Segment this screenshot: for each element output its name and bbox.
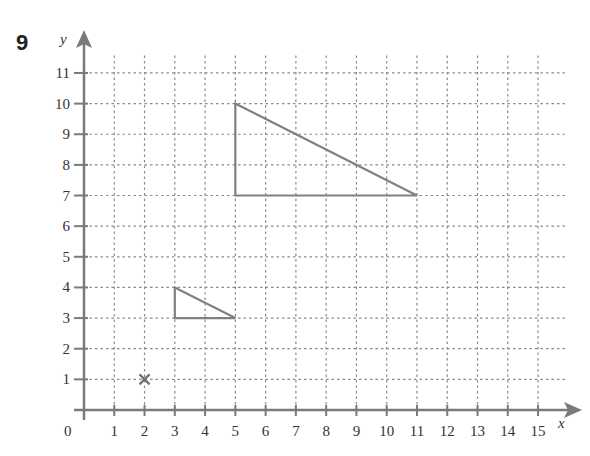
- x-axis-label: x: [557, 415, 565, 431]
- y-tick-label: 8: [63, 157, 71, 173]
- coordinate-grid: 1234567891011121314151234567891011 x y 0: [0, 0, 590, 456]
- x-tick-label: 5: [232, 423, 240, 439]
- x-tick-label: 13: [470, 423, 485, 439]
- y-axis-label: y: [58, 31, 67, 47]
- y-tick-label: 10: [55, 96, 70, 112]
- axis-ticks: 1234567891011121314151234567891011: [55, 65, 546, 439]
- y-tick-label: 2: [63, 341, 71, 357]
- x-tick-label: 15: [531, 423, 546, 439]
- y-tick-label: 11: [56, 65, 70, 81]
- x-tick-label: 2: [141, 423, 149, 439]
- y-tick-label: 4: [63, 279, 71, 295]
- x-tick-label: 8: [322, 423, 330, 439]
- x-tick-label: 10: [379, 423, 394, 439]
- x-tick-label: 14: [500, 423, 516, 439]
- x-tick-label: 9: [353, 423, 361, 439]
- x-tick-label: 3: [171, 423, 179, 439]
- x-tick-label: 11: [410, 423, 424, 439]
- y-tick-label: 5: [63, 249, 71, 265]
- y-tick-label: 9: [63, 126, 71, 142]
- origin-label: 0: [64, 423, 72, 439]
- y-tick-label: 1: [63, 371, 71, 387]
- x-tick-label: 4: [201, 423, 209, 439]
- x-tick-label: 6: [262, 423, 270, 439]
- axes: [74, 30, 582, 420]
- y-tick-label: 7: [63, 188, 71, 204]
- y-tick-label: 6: [63, 218, 71, 234]
- x-tick-label: 7: [292, 423, 300, 439]
- gridlines: [84, 55, 567, 410]
- y-tick-label: 3: [63, 310, 71, 326]
- x-tick-label: 12: [440, 423, 455, 439]
- x-tick-label: 1: [111, 423, 119, 439]
